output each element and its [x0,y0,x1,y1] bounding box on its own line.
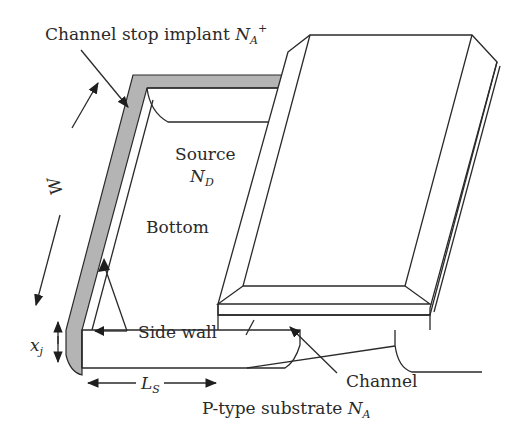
side-wall-label: Side wall [138,322,217,342]
source-doping-label: ND [189,166,214,189]
channel-stop-label: Channel stop implant NA+ [45,22,267,47]
width-label: W [43,174,67,198]
channel-stop-callout: Channel stop implant NA+ [45,22,267,107]
bottom-label: Bottom [146,217,209,237]
source-length-dimension: LS [88,373,216,396]
source-length-label: LS [140,373,160,396]
mosfet-source-diagram: W Channel stop implant NA+ Source ND Bot… [0,0,521,444]
junction-depth-label: xj [30,335,44,358]
channel-label: Channel [346,371,418,391]
substrate-label: P-type substrate NA [202,398,371,421]
junction-depth-dimension: xj [30,322,58,362]
source-label: Source [175,144,236,164]
